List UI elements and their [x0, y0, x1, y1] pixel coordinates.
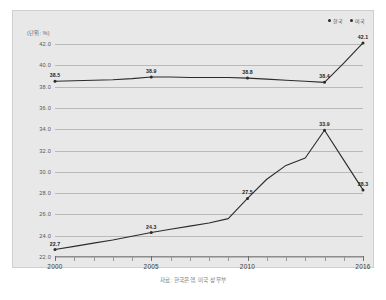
x-axis-tick-label: 2010 — [240, 263, 255, 270]
data-point-marker — [150, 76, 153, 79]
data-point-label: 28.3 — [358, 181, 369, 187]
y-axis-tick-label: 42.0 — [39, 41, 51, 47]
data-point-marker — [323, 129, 326, 132]
plot-area: 22.024.026.028.030.032.034.036.038.040.0… — [55, 44, 363, 257]
x-axis-tick-label: 2016 — [355, 263, 370, 270]
y-axis-tick-label: 26.0 — [39, 211, 51, 217]
data-point-label: 38.5 — [50, 72, 61, 78]
chart-legend: 한국미국 — [328, 17, 365, 24]
y-axis-tick-label: 32.0 — [39, 148, 51, 154]
x-axis-tick — [286, 257, 287, 261]
data-point-marker — [150, 231, 153, 234]
y-axis-tick-label: 30.0 — [39, 169, 51, 175]
y-axis-title: (단위: %) — [27, 29, 50, 37]
y-axis-tick-label: 38.0 — [39, 84, 51, 90]
data-point-label: 33.9 — [319, 121, 330, 127]
data-point-label: 24.3 — [146, 224, 157, 230]
x-axis-tick — [74, 257, 75, 261]
x-axis-tick — [209, 257, 210, 261]
data-point-label: 38.8 — [242, 69, 253, 75]
legend-swatch-icon — [350, 19, 353, 22]
data-point-label: 38.9 — [146, 68, 157, 74]
x-axis-tick — [305, 257, 306, 261]
x-axis-tick — [113, 257, 114, 261]
y-axis-tick-label: 24.0 — [39, 233, 51, 239]
data-point-label: 22.7 — [50, 241, 61, 247]
data-point-marker — [362, 188, 365, 191]
x-axis-tick — [190, 257, 191, 261]
data-point-marker — [362, 41, 365, 44]
legend-entry: 미국 — [350, 17, 365, 24]
data-point-marker — [54, 248, 57, 251]
x-axis-tick — [325, 257, 326, 261]
y-axis-tick-label: 28.0 — [39, 190, 51, 196]
x-axis-tick — [363, 256, 364, 261]
x-axis-tick — [132, 257, 133, 261]
data-point-marker — [246, 77, 249, 80]
data-point-marker — [323, 81, 326, 84]
x-axis-tick — [171, 257, 172, 261]
x-axis-tick-label: 2005 — [144, 263, 159, 270]
x-axis-tick-label: 2000 — [47, 263, 62, 270]
legend-swatch-icon — [328, 19, 331, 22]
series-line — [55, 43, 363, 82]
legend-label: 한국 — [333, 17, 343, 24]
legend-entry: 한국 — [328, 17, 343, 24]
y-axis-tick-label: 22.0 — [39, 254, 51, 260]
x-axis-tick — [94, 257, 95, 261]
chart-caption: 자료: 한국은행, 미국 상무부 — [0, 276, 386, 284]
chart-screenshot: (단위: %) 한국미국 22.024.026.028.030.032.034.… — [0, 0, 386, 300]
y-axis-tick-label: 36.0 — [39, 105, 51, 111]
x-axis-tick — [267, 257, 268, 261]
data-point-marker — [54, 80, 57, 83]
x-axis-tick — [344, 257, 345, 261]
x-axis-tick — [228, 257, 229, 261]
data-point-label: 38.4 — [319, 73, 330, 79]
chart-panel: (단위: %) 한국미국 22.024.026.028.030.032.034.… — [12, 10, 374, 268]
data-point-label: 27.5 — [242, 189, 253, 195]
data-point-marker — [246, 197, 249, 200]
legend-label: 미국 — [355, 17, 365, 24]
y-axis-tick-label: 34.0 — [39, 126, 51, 132]
series-line — [55, 130, 363, 249]
data-point-label: 42.1 — [358, 34, 369, 40]
y-axis-tick-label: 40.0 — [39, 62, 51, 68]
series-lines — [55, 44, 363, 257]
